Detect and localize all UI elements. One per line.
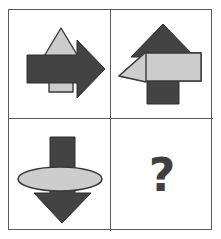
matrix-cell-top-left[interactable]: [9, 10, 110, 118]
matrix-cell-bottom-right-answer[interactable]: ?: [111, 119, 213, 231]
question-mark-placeholder: ?: [111, 119, 213, 231]
ellipse-shape: [18, 167, 102, 191]
matrix-cell-top-right[interactable]: [111, 10, 213, 118]
matrix-puzzle: ?: [0, 0, 221, 239]
matrix-frame: ?: [8, 9, 212, 230]
left-arrow-body-shape: [145, 53, 201, 81]
matrix-cell-bottom-left[interactable]: [9, 119, 110, 231]
